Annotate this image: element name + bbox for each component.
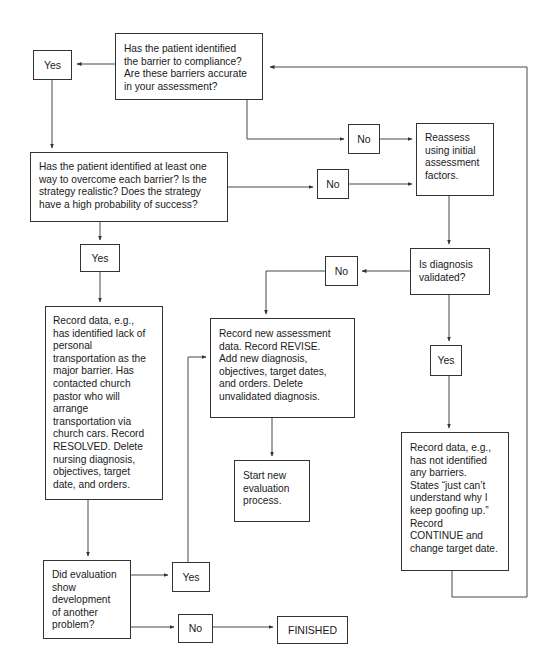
question-strategy-text: Has the patient identified at least one … <box>39 161 227 211</box>
start-new-text: Start new evaluation process. <box>243 470 309 508</box>
yes-text: Yes <box>182 571 199 584</box>
question-barrier-identified: Has the patient identified the barrier t… <box>115 33 263 100</box>
yes-text: Yes <box>44 59 61 72</box>
yes-barrier-label: Yes <box>33 50 72 80</box>
no-another-label: No <box>178 614 213 643</box>
record-resolved-box: Record data, e.g., has identified lack o… <box>45 306 163 500</box>
finished-text: FINISHED <box>288 624 337 637</box>
reassess-box: Reassess using initial assessment factor… <box>416 123 494 196</box>
question-another-problem-text: Did evaluation show development of anoth… <box>52 569 130 632</box>
question-diagnosis-validated: Is diagnosis validated? <box>410 248 490 295</box>
no-text: No <box>189 622 202 635</box>
yes-strategy-label: Yes <box>80 244 120 272</box>
yes-diagnosis-label: Yes <box>430 345 462 376</box>
yes-another-label: Yes <box>172 562 210 592</box>
no-text: No <box>326 178 339 191</box>
start-new-evaluation-box: Start new evaluation process. <box>234 460 310 522</box>
no-text: No <box>335 265 348 278</box>
record-resolved-text: Record data, e.g., has identified lack o… <box>53 315 162 491</box>
record-continue-text: Record data, e.g., has not identified an… <box>410 442 508 555</box>
question-barrier-text: Has the patient identified the barrier t… <box>124 43 262 93</box>
record-revise-box: Record new assessment data. Record REVIS… <box>210 318 355 418</box>
reassess-text: Reassess using initial assessment factor… <box>425 132 493 182</box>
no-text: No <box>357 133 370 146</box>
record-continue-box: Record data, e.g., has not identified an… <box>401 432 509 571</box>
no-strategy-label: No <box>317 169 349 199</box>
finished-box: FINISHED <box>277 616 348 644</box>
question-strategy: Has the patient identified at least one … <box>30 152 228 222</box>
question-another-problem: Did evaluation show development of anoth… <box>43 560 131 639</box>
record-revise-text: Record new assessment data. Record REVIS… <box>219 328 354 404</box>
yes-text: Yes <box>437 354 454 367</box>
no-diagnosis-label: No <box>325 256 358 286</box>
no-barrier-label: No <box>348 124 380 154</box>
yes-text: Yes <box>91 252 108 265</box>
question-diagnosis-text: Is diagnosis validated? <box>419 259 489 284</box>
